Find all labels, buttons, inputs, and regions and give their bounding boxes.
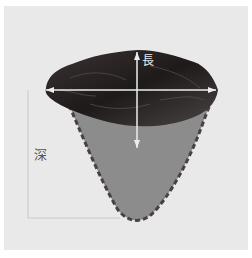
stone-shape: [46, 50, 218, 126]
depth-label: 深: [34, 144, 47, 163]
stone-diagram: [0, 0, 252, 258]
length-label: 長: [142, 51, 154, 68]
